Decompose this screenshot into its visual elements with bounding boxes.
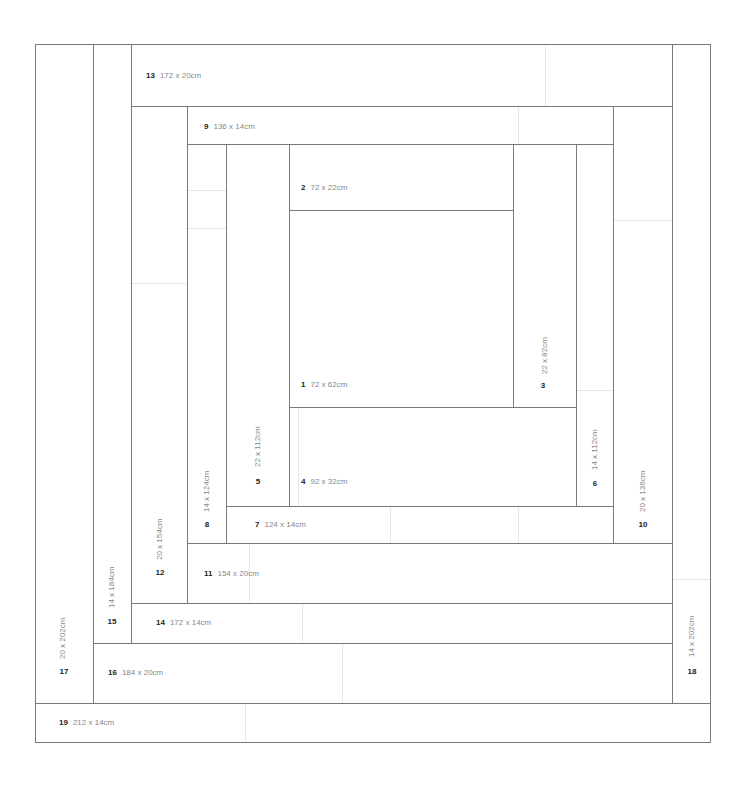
- piece-dim-8: 14 x 124cm: [202, 471, 212, 512]
- piece-num-6: 6: [585, 479, 605, 489]
- seam-line: [302, 604, 303, 643]
- piece-num-12: 12: [150, 568, 170, 578]
- piece-num-5: 5: [248, 477, 268, 487]
- piece-label-7: 7124 x 14cm: [255, 520, 306, 530]
- piece-19: [35, 703, 711, 743]
- piece-label-4: 492 x 32cm: [301, 477, 347, 487]
- seam-line: [390, 507, 391, 543]
- quilt-diagram: 13172 x 20cm 9136 x 14cm 272 x 22cm 172 …: [0, 0, 746, 787]
- piece-1: [289, 210, 514, 408]
- piece-dim-17: 20 x 202cm: [58, 618, 68, 659]
- piece-14: [131, 603, 673, 644]
- seam-line: [298, 408, 299, 506]
- piece-dim-6: 14 x 112cm: [590, 429, 600, 470]
- seam-line: [518, 507, 519, 543]
- piece-11: [187, 543, 673, 604]
- piece-label-1: 172 x 62cm: [301, 380, 347, 390]
- piece-num-17: 17: [54, 667, 74, 677]
- piece-label-19: 19212 x 14cm: [59, 718, 114, 728]
- piece-13: [131, 44, 673, 107]
- piece-num-3: 3: [533, 381, 553, 391]
- seam-line: [545, 45, 546, 106]
- piece-num-10: 10: [633, 520, 653, 530]
- piece-18: [672, 44, 711, 704]
- piece-dim-12: 20 x 154cm: [155, 519, 165, 560]
- piece-4: [289, 407, 577, 507]
- seam-line: [188, 190, 226, 191]
- piece-dim-18: 14 x 202cm: [687, 616, 697, 657]
- piece-dim-3: 22 x 82cm: [540, 337, 550, 374]
- piece-label-2: 272 x 22cm: [301, 183, 347, 193]
- piece-16: [93, 643, 673, 704]
- piece-num-15: 15: [102, 617, 122, 627]
- seam-line: [577, 390, 613, 391]
- piece-dim-15: 14 x 184cm: [107, 567, 117, 608]
- seam-line: [245, 704, 246, 742]
- piece-label-13: 13172 x 20cm: [146, 71, 201, 81]
- piece-2: [289, 144, 514, 211]
- seam-line: [188, 228, 226, 229]
- seam-line: [132, 283, 187, 284]
- piece-label-16: 16184 x 20cm: [108, 668, 163, 678]
- piece-label-14: 14172 x 14cm: [156, 618, 211, 628]
- seam-line: [673, 579, 710, 580]
- seam-line: [614, 220, 672, 221]
- piece-dim-5: 22 x 112cm: [253, 426, 263, 467]
- piece-15: [93, 44, 132, 644]
- piece-label-9: 9136 x 14cm: [204, 122, 255, 132]
- seam-line: [342, 644, 343, 703]
- seam-line: [518, 107, 519, 144]
- piece-label-11: 11154 x 20cm: [204, 569, 259, 579]
- piece-num-8: 8: [197, 520, 217, 530]
- piece-dim-10: 20 x 136cm: [638, 471, 648, 512]
- piece-num-18: 18: [682, 667, 702, 677]
- piece-17: [35, 44, 94, 704]
